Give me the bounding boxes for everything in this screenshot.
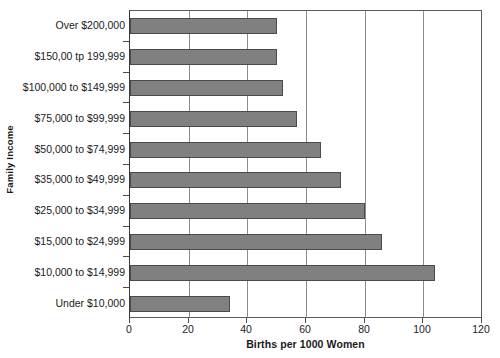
x-axis-tick-label: 80	[358, 323, 370, 335]
x-axis-title: Births per 1000 Women	[129, 338, 482, 350]
y-axis-tick-label: $100,000 to $149,999	[23, 79, 125, 95]
y-axis-tick-label: Over $200,000	[56, 17, 125, 33]
plot-area	[129, 10, 482, 318]
bar	[130, 234, 382, 250]
x-axis-tick-labels: 020406080100120	[129, 323, 482, 337]
bar-chart: Family Income Over $200,000$150,00 tp 19…	[0, 0, 500, 358]
bar	[130, 296, 230, 312]
bar	[130, 172, 341, 188]
y-axis-tick-label: $150,00 tp 199,999	[34, 48, 125, 64]
bar	[130, 203, 365, 219]
bar	[130, 142, 321, 158]
y-axis-title: Family Income	[0, 0, 18, 318]
bar	[130, 265, 435, 281]
y-axis-tick-labels: Over $200,000$150,00 tp 199,999$100,000 …	[18, 10, 128, 318]
y-axis-tick-label: Under $10,000	[56, 295, 125, 311]
y-axis-tick-label: $15,000 to $24,999	[34, 233, 125, 249]
y-axis-tick-label: $50,000 to $74,999	[34, 141, 125, 157]
x-axis-tick-label: 100	[413, 323, 431, 335]
y-axis-tick-label: $75,000 to $99,999	[34, 110, 125, 126]
x-axis-tick-label: 40	[240, 323, 252, 335]
x-axis-tick-label: 120	[472, 323, 490, 335]
x-axis-tick-label: 0	[126, 323, 132, 335]
y-axis-tick-label: $25,000 to $34,999	[34, 202, 125, 218]
bar	[130, 18, 277, 34]
x-axis-tick-label: 60	[299, 323, 311, 335]
bar	[130, 49, 277, 65]
x-axis-tick-label: 20	[182, 323, 194, 335]
y-axis-tick-label: $10,000 to $14,999	[34, 264, 125, 280]
y-axis-title-text: Family Income	[4, 125, 15, 194]
y-axis-tick-label: $35,000 to $49,999	[34, 171, 125, 187]
bar	[130, 111, 297, 127]
bar	[130, 80, 283, 96]
